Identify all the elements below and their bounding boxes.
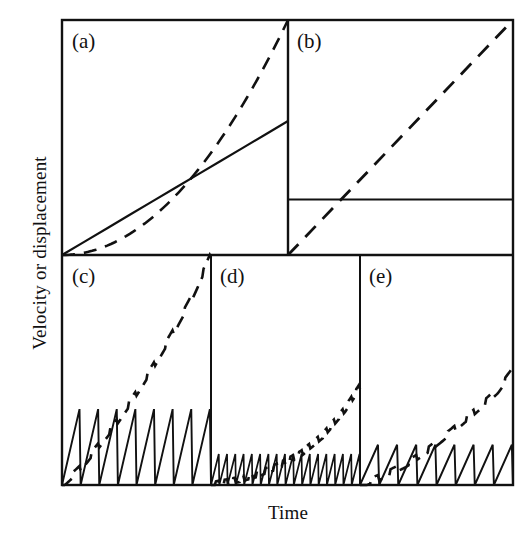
y-axis-label: Velocity or displacement [29, 103, 51, 403]
panel-label-a: (a) [72, 29, 95, 53]
panel-label-d: (d) [220, 264, 245, 288]
x-axis-label: Time [62, 502, 514, 524]
stick-slip-figure-svg: (a) (b) (c) (d) (e) [0, 0, 532, 541]
figure-root: (a) (b) (c) (d) (e) [0, 0, 532, 541]
panel-label-c: (c) [72, 264, 95, 288]
panel-label-e: (e) [369, 264, 392, 288]
panel-label-b: (b) [297, 29, 322, 53]
